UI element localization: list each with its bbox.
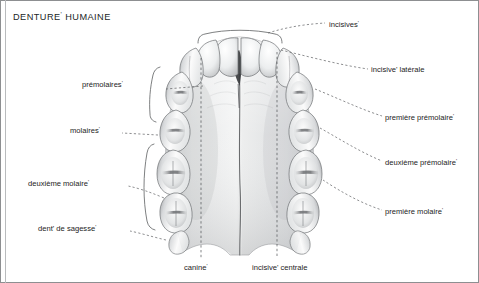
dental-arch-illustration [0,0,479,283]
bracket-molaires [144,144,155,230]
page-title-rest: HUMAINE [62,12,111,22]
label-incisives: incisives' [329,21,359,29]
label-premiere-premolaire-prime: ' [453,113,454,119]
label-deuxieme-molaire-text: deuxième molaire [28,179,88,188]
label-premiere-molaire: première molaire' [385,208,443,216]
label-incisives-text: incisives [329,20,358,29]
leader-incisives [268,23,325,33]
label-premiere-premolaire: première prémolaire' [385,114,454,122]
label-deuxieme-premolaire-prime: ' [456,158,457,164]
label-dent-de-sagesse-prime: ' [95,224,96,230]
tooth-dent-de-sagesse-right [290,231,310,254]
page-title-text: DENTURE [13,12,61,22]
label-molaires: molaires' [70,127,100,135]
label-incisive-laterale: incisive' latérale [371,66,424,74]
label-molaires-prime: ' [99,126,100,132]
bracket-premolaires [150,67,160,122]
figure-inner-rule [5,0,6,283]
leader-premiere-molaire [323,180,382,210]
label-incisive-centrale-text: incisive' centrale [252,263,307,272]
label-deuxieme-premolaire-text: deuxième prémolaire [385,158,456,167]
label-incisive-laterale-text: incisive' latérale [371,65,424,74]
leader-deuxieme-premolaire [320,128,382,161]
label-molaires-text: molaires [70,126,99,135]
leader-molaires [122,133,158,135]
label-canine-text: canine [184,263,206,272]
label-premiere-molaire-prime: ' [442,207,443,213]
dental-anatomy-figure: DENTURE' HUMAINE prémolaires' molaires' … [0,0,479,283]
page-title: DENTURE' HUMAINE [13,11,111,22]
label-premolaires-text: prémolaires [82,80,122,89]
label-deuxieme-molaire-prime: ' [88,179,89,185]
label-deuxieme-premolaire: deuxième prémolaire' [385,159,457,167]
tooth-dent-de-sagesse-left [169,231,189,254]
leader-premiere-premolaire [315,89,382,116]
label-premiere-molaire-text: première molaire [385,207,442,216]
label-premolaires-prime: ' [122,80,123,86]
leader-deuxieme-molaire [128,186,164,198]
label-premolaires: prémolaires' [82,81,123,89]
label-incisives-prime: ' [358,20,359,26]
leader-dent-de-sagesse [130,231,166,240]
label-dent-de-sagesse-text: dent' de sagesse [38,224,95,233]
label-dent-de-sagesse: dent' de sagesse' [38,225,96,233]
label-canine-prime: ' [206,263,207,269]
label-incisive-centrale: incisive' centrale [252,264,307,272]
label-premiere-premolaire-text: première prémolaire [385,113,453,122]
label-canine: canine' [184,264,207,272]
label-deuxieme-molaire: deuxième molaire' [28,180,89,188]
